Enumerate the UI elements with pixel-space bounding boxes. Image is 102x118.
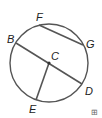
circle-diagram: F G B C D E ⊞	[0, 0, 102, 118]
radius-ce	[36, 63, 49, 100]
label-e: E	[29, 103, 37, 115]
label-g: G	[86, 38, 95, 50]
corner-mark-icon: ⊞	[91, 108, 98, 117]
label-c: C	[51, 50, 59, 62]
label-f: F	[36, 11, 44, 23]
label-d: D	[85, 85, 93, 97]
label-b: B	[7, 33, 14, 45]
